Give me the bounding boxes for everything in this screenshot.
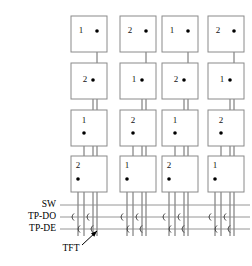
pixel-cell-r2-c4-contact-dot [228, 78, 232, 82]
pixel-cell-r2-c1-label: 2 [83, 74, 88, 84]
bus-labels-layer: SWTP-DOTP-DE [28, 199, 56, 233]
pixel-cell-r3-c3-contact-dot [173, 131, 177, 135]
pixel-cell-r1-c4[interactable] [208, 16, 244, 52]
pixel-cell-r2-c2-contact-dot [140, 78, 144, 82]
pixel-cell-r2-c1[interactable] [71, 63, 107, 99]
pixel-cell-r1-c4-label: 2 [216, 25, 221, 35]
pixel-cell-r4-c4-contact-dot [213, 177, 217, 181]
bus-lines-layer [60, 205, 250, 229]
bus-label-tp-de: TP-DE [29, 223, 56, 233]
pixel-cell-r4-c3-contact-dot [167, 177, 171, 181]
pixel-cell-r4-c1-label: 2 [76, 160, 81, 170]
pixel-cell-r3-c1-label: 1 [82, 115, 87, 125]
pixel-cell-r3-c1-contact-dot [82, 131, 86, 135]
pixel-cell-r2-c3[interactable] [162, 63, 198, 99]
pixel-cell-r3-c4-contact-dot [219, 131, 223, 135]
figure-canvas: 1212212112122121 SWTP-DOTP-DE TFT [0, 0, 252, 266]
pixel-cell-r3-c2-contact-dot [131, 131, 135, 135]
bus-label-tp-do: TP-DO [28, 211, 56, 221]
pixel-cell-r4-c4-label: 1 [213, 160, 218, 170]
pixel-cell-r3-c3[interactable] [162, 110, 198, 146]
bus-label-sw: SW [42, 199, 56, 209]
pixel-cell-r2-c3-label: 2 [174, 74, 179, 84]
pixel-cell-r2-c1-contact-dot [91, 78, 95, 82]
pixel-cell-r4-c3-label: 2 [167, 160, 172, 170]
pixel-cell-r3-c2[interactable] [120, 110, 156, 146]
pixel-cell-r1-c2-label: 2 [128, 25, 133, 35]
pixel-cell-r3-c4[interactable] [208, 110, 244, 146]
pixel-cell-r1-c2-contact-dot [144, 29, 148, 33]
tft-annotation-layer: TFT [63, 231, 97, 253]
tft-symbols-layer [72, 214, 230, 233]
pixel-cell-r2-c4[interactable] [208, 63, 244, 99]
pixel-cell-r3-c2-label: 2 [131, 115, 136, 125]
pixel-cell-r1-c1-contact-dot [95, 29, 99, 33]
pixel-cell-r2-c2-label: 1 [132, 74, 137, 84]
pixel-cell-r1-c2[interactable] [120, 16, 156, 52]
pixel-cell-r1-c1[interactable] [71, 16, 107, 52]
pixel-cell-r3-c3-label: 1 [173, 115, 178, 125]
pixel-cell-r1-c3-contact-dot [186, 29, 190, 33]
pixel-cell-r3-c4-label: 2 [219, 115, 224, 125]
pixel-cell-r4-c2-contact-dot [125, 177, 129, 181]
pixel-cell-r1-c3-label: 1 [170, 25, 175, 35]
pixel-cell-r4-c2-label: 1 [125, 160, 130, 170]
tft-annotation-label: TFT [63, 243, 80, 253]
pixel-cell-r2-c3-contact-dot [182, 78, 186, 82]
pixel-cell-r1-c1-label: 1 [79, 25, 84, 35]
pixel-cell-r2-c2[interactable] [120, 63, 156, 99]
pixel-cell-r2-c4-label: 1 [220, 74, 225, 84]
pixel-cell-r1-c4-contact-dot [232, 29, 236, 33]
circuit-diagram: 1212212112122121 SWTP-DOTP-DE TFT [0, 0, 252, 266]
pixel-cell-r1-c3[interactable] [162, 16, 198, 52]
pixel-cell-r3-c1[interactable] [71, 110, 107, 146]
pixel-cell-r4-c1-contact-dot [76, 177, 80, 181]
